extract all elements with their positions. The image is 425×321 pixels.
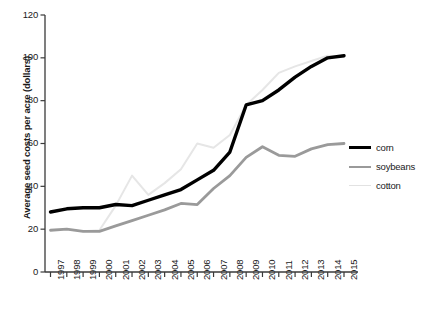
data-series (51, 56, 345, 232)
legend: corn soybeans cotton (349, 138, 415, 195)
legend-item-soybeans[interactable]: soybeans (349, 157, 415, 176)
series-line-soybeans (51, 144, 345, 232)
legend-swatch-soybeans (349, 166, 371, 168)
legend-label-corn: corn (376, 142, 394, 153)
legend-label-cotton: cotton (376, 180, 401, 191)
axes (41, 15, 359, 277)
legend-swatch-corn (349, 146, 371, 149)
legend-item-cotton[interactable]: cotton (349, 176, 415, 195)
legend-label-soybeans: soybeans (376, 161, 415, 172)
legend-swatch-cotton (349, 185, 371, 186)
legend-item-corn[interactable]: corn (349, 138, 415, 157)
series-line-corn (51, 56, 345, 212)
line-chart: Average seed costs per acre (dollars) 02… (0, 0, 425, 321)
